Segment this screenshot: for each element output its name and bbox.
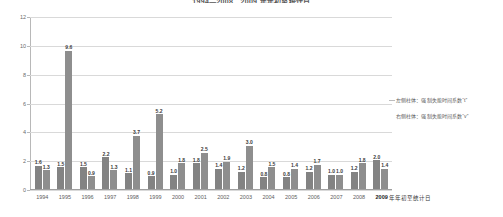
bar: 2.5 (201, 153, 208, 189)
x-axis-tick-label-last-year: 2009 (376, 194, 388, 200)
bar: 1.4 (215, 169, 222, 189)
chart-title: 1994—2008、2009 年年初至统计日 (0, 0, 503, 3)
bar-value-label: 1.5 (80, 161, 87, 167)
x-axis-tick-label: 1998 (122, 194, 145, 200)
bar-value-label: 1.2 (306, 165, 313, 171)
x-axis-tick-label: 1997 (99, 194, 122, 200)
plot-area: 024681012 1.61.31.59.61.50.92.21.31.13.7… (30, 17, 392, 190)
x-axis-tick-label: 1999 (144, 194, 167, 200)
bar-value-label: 2.0 (373, 154, 380, 160)
bar: 1.4 (381, 169, 388, 189)
y-axis-tick-label: 4 (23, 129, 26, 135)
x-axis-tick-label: 2008 (348, 194, 371, 200)
y-axis-tick-mark (27, 46, 30, 47)
bar: 0.9 (88, 176, 95, 189)
bar-value-label: 1.1 (125, 167, 132, 173)
bar: 5.2 (156, 114, 163, 189)
y-axis-tick-label: 0 (23, 187, 26, 193)
bar-value-label: 1.2 (238, 165, 245, 171)
bar-group: 1.21.8 (347, 17, 370, 189)
bar: 1.5 (80, 167, 87, 189)
bar-value-label: 1.8 (193, 157, 200, 163)
x-axis-tick-label: 2001 (189, 194, 212, 200)
y-axis-tick-label: 10 (20, 43, 26, 49)
bar: 1.8 (359, 163, 366, 189)
bar: 1.5 (268, 167, 275, 189)
bar-group: 1.01.0 (324, 17, 347, 189)
bar-value-label: 3.0 (246, 139, 253, 145)
bar-value-label: 0.8 (283, 171, 290, 177)
bar: 1.2 (306, 172, 313, 189)
bar-chart: 1994—2008、2009 年年初至统计日 024681012 1.61.31… (0, 0, 503, 217)
bar-group: 1.41.9 (212, 17, 235, 189)
bar: 2.0 (373, 160, 380, 189)
legend-dash-icon (389, 100, 395, 101)
bar: 2.2 (102, 157, 109, 189)
x-axis-tick-label: 2000 (167, 194, 190, 200)
y-axis-tick-label: 12 (20, 14, 26, 20)
bar-group: 1.13.7 (121, 17, 144, 189)
bar-value-label: 5.2 (156, 108, 163, 114)
bar-group: 0.95.2 (144, 17, 167, 189)
bar-value-label: 1.0 (170, 168, 177, 174)
bar: 0.8 (260, 177, 267, 189)
bar-value-label: 1.4 (291, 162, 298, 168)
bar: 3.0 (246, 146, 253, 189)
bar: 1.5 (57, 167, 64, 189)
bar: 3.7 (133, 136, 140, 189)
bar: 1.8 (193, 163, 200, 189)
x-axis-tick-label: 2002 (212, 194, 235, 200)
y-axis-tick-mark (27, 190, 30, 191)
x-axis-tick-label: 2009年年初至统计日 (370, 194, 393, 200)
bar-group: 1.01.8 (166, 17, 189, 189)
bar-group: 1.82.5 (189, 17, 212, 189)
bar-value-label: 0.8 (260, 171, 267, 177)
x-axis-tick-label: 2006 (303, 194, 326, 200)
y-axis-tick-mark (27, 75, 30, 76)
x-axis-tick-label: 2007 (325, 194, 348, 200)
bar: 1.8 (178, 163, 185, 189)
bar-group: 1.59.6 (54, 17, 77, 189)
bar: 1.0 (170, 175, 177, 189)
bar-value-label: 3.7 (133, 129, 140, 135)
x-axis-labels: 1994199519961997199819992000200120022003… (31, 194, 393, 200)
x-axis-tick-label: 1994 (31, 194, 54, 200)
bar-value-label: 1.3 (110, 164, 117, 170)
bar-value-label: 9.6 (65, 44, 72, 50)
legend-item-left: 左侧柱体：强制失能时间系数“t” (396, 96, 503, 103)
y-axis-tick-label: 6 (23, 101, 26, 107)
y-axis-tick-label: 2 (23, 158, 26, 164)
y-axis-tick-mark (27, 132, 30, 133)
bar-value-label: 1.5 (268, 161, 275, 167)
bar: 0.8 (283, 177, 290, 189)
bar: 1.1 (125, 173, 132, 189)
y-axis-tick-label: 8 (23, 72, 26, 78)
bar-value-label: 1.8 (178, 157, 185, 163)
x-axis-tick-label: 1995 (54, 194, 77, 200)
bar: 9.6 (65, 51, 72, 189)
bar: 1.0 (328, 175, 335, 189)
bar-group: 1.21.7 (302, 17, 325, 189)
x-axis-tick-label: 2003 (235, 194, 258, 200)
bar: 1.7 (314, 165, 321, 190)
bar: 0.9 (148, 176, 155, 189)
legend-item-right: 右侧柱体：强制失能时间系数“v” (396, 112, 503, 119)
bar-group: 1.23.0 (234, 17, 257, 189)
bar-value-label: 1.2 (351, 165, 358, 171)
bar-value-label: 1.7 (314, 158, 321, 164)
bar: 1.2 (238, 172, 245, 189)
x-axis-tick-label: 1996 (76, 194, 99, 200)
x-axis-tick-label: 2004 (257, 194, 280, 200)
legend: 左侧柱体：强制失能时间系数“t” 右侧柱体：强制失能时间系数“v” (396, 96, 503, 128)
bar: 1.0 (336, 175, 343, 189)
bar-value-label: 1.9 (223, 155, 230, 161)
bar: 1.9 (223, 162, 230, 189)
bar-group: 2.01.4 (369, 17, 392, 189)
bar-value-label: 1.0 (336, 168, 343, 174)
bar-value-label: 1.3 (43, 164, 50, 170)
x-axis-label-suffix: 年年初至统计日 (389, 194, 431, 202)
bar-value-label: 1.8 (359, 157, 366, 163)
x-axis-tick-label: 2005 (280, 194, 303, 200)
bar-value-label: 1.5 (57, 161, 64, 167)
bar-group: 1.61.3 (31, 17, 54, 189)
